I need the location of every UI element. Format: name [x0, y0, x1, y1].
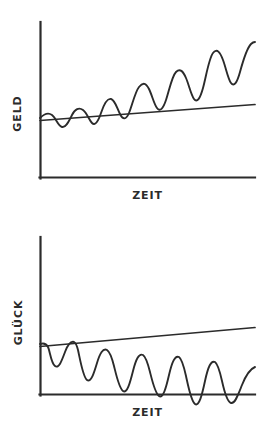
- happiness-x-axis-label: ZEIT: [40, 407, 255, 418]
- chart-panel-happiness: GLÜCK ZEIT: [0, 217, 272, 434]
- money-oscillation-curve: [40, 42, 255, 127]
- chart-panel-money: GELD ZEIT: [0, 0, 272, 217]
- happiness-y-axis-label: GLÜCK: [13, 293, 24, 353]
- two-panel-line-chart-figure: GELD ZEIT GLÜCK ZEIT: [0, 0, 272, 434]
- happiness-trend-line: [40, 328, 255, 347]
- money-x-axis-label: ZEIT: [40, 190, 255, 201]
- money-y-axis-label: GELD: [12, 86, 23, 142]
- money-trend-line: [40, 105, 255, 121]
- happiness-chart-svg: [0, 217, 272, 434]
- money-chart-svg: [0, 0, 272, 217]
